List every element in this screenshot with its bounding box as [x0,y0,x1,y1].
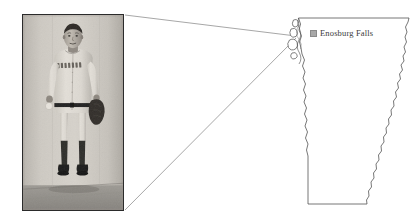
vermont-state-outline [299,18,410,204]
locator-figure: Black and white photograph of a baseball… [0,0,418,224]
city-label-text: Enosburg Falls [320,29,373,38]
leader-line-top [125,15,296,36]
leader-line-bottom [125,38,296,210]
champlain-island-tip [291,53,298,60]
map-marker-square-icon[interactable] [310,30,317,37]
baseball-player-photograph: Black and white photograph of a baseball… [22,14,124,211]
photograph-image [23,15,123,210]
champlain-island-south [288,39,298,50]
city-label-enosburg-falls[interactable]: Enosburg Falls [310,29,373,38]
